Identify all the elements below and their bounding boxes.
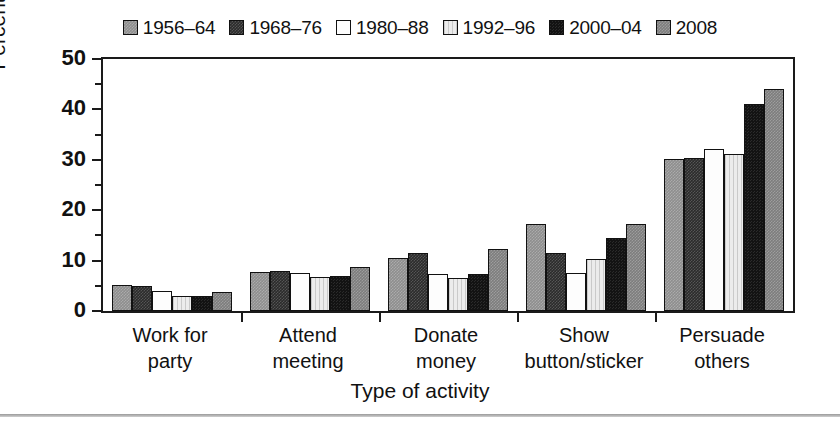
y-tick-label: 30 (62, 148, 86, 170)
bar (350, 267, 370, 311)
x-axis-category-labels: Work for partyAttend meetingDonate money… (101, 322, 795, 378)
bar (172, 296, 192, 311)
y-axis-ticks: 01020304050 (0, 57, 101, 313)
bar (428, 274, 448, 311)
bar (310, 277, 330, 311)
bar (684, 158, 704, 311)
bar-group (655, 59, 793, 311)
x-axis-title: Type of activity (0, 379, 840, 403)
bar (448, 278, 468, 311)
bar (546, 253, 566, 311)
bar-groups (103, 59, 793, 311)
legend-swatch-icon (656, 20, 671, 35)
bar (526, 224, 546, 311)
bar (192, 296, 212, 311)
bar (468, 274, 488, 311)
bar (488, 249, 508, 311)
legend-swatch-icon (336, 20, 351, 35)
legend-label: 2000–04 (569, 18, 642, 37)
y-tick-label: 20 (62, 198, 86, 220)
legend-item-1992-96: 1992–96 (443, 18, 536, 37)
bar (626, 224, 646, 311)
legend-swatch-icon (229, 20, 244, 35)
bar (388, 258, 408, 311)
bar-group (241, 59, 379, 311)
bar (606, 238, 626, 311)
legend-item-1968-76: 1968–76 (229, 18, 322, 37)
bar (586, 259, 606, 311)
y-tick-label: 40 (62, 97, 86, 119)
bar (724, 154, 744, 311)
bar (330, 276, 350, 311)
bar (290, 273, 310, 311)
bar-group (103, 59, 241, 311)
y-tick-mark (92, 58, 101, 60)
legend-item-2000-04: 2000–04 (549, 18, 642, 37)
chart-legend: 1956–64 1968–76 1980–88 1992–96 2000–04 … (0, 18, 840, 37)
bar (566, 273, 586, 311)
x-tick-mark (241, 313, 243, 322)
bar (664, 159, 684, 311)
y-tick-mark (92, 159, 101, 161)
y-tick-label: 0 (74, 299, 86, 321)
bar (270, 271, 290, 311)
bar-group (379, 59, 517, 311)
y-tick-mark (92, 310, 101, 312)
x-tick-mark (379, 313, 381, 322)
bar (744, 104, 764, 311)
bar (250, 272, 270, 311)
x-tick-mark (517, 313, 519, 322)
legend-label: 1980–88 (356, 18, 429, 37)
bar-chart-figure: 1956–64 1968–76 1980–88 1992–96 2000–04 … (0, 0, 840, 431)
bar (152, 291, 172, 311)
bar (704, 149, 724, 311)
x-axis-ticks (101, 313, 795, 322)
bar (764, 89, 784, 311)
page-margin (0, 417, 840, 431)
bar (112, 285, 132, 311)
legend-item-1956-64: 1956–64 (123, 18, 216, 37)
legend-item-1980-88: 1980–88 (336, 18, 429, 37)
bar (132, 286, 152, 311)
legend-label: 1992–96 (463, 18, 536, 37)
y-tick-mark (92, 260, 101, 262)
y-tick-mark (92, 108, 101, 110)
legend-swatch-icon (549, 20, 564, 35)
bar (408, 253, 428, 311)
bar (212, 292, 232, 311)
legend-label: 1968–76 (249, 18, 322, 37)
y-tick-label: 10 (62, 249, 86, 271)
legend-swatch-icon (123, 20, 138, 35)
y-tick-label: 50 (62, 47, 86, 69)
bar-group (517, 59, 655, 311)
x-category-label: Persuade others (635, 322, 809, 374)
y-tick-mark (92, 209, 101, 211)
x-tick-mark (655, 313, 657, 322)
legend-item-2008: 2008 (656, 18, 717, 37)
legend-label: 2008 (676, 18, 717, 37)
legend-swatch-icon (443, 20, 458, 35)
legend-label: 1956–64 (143, 18, 216, 37)
